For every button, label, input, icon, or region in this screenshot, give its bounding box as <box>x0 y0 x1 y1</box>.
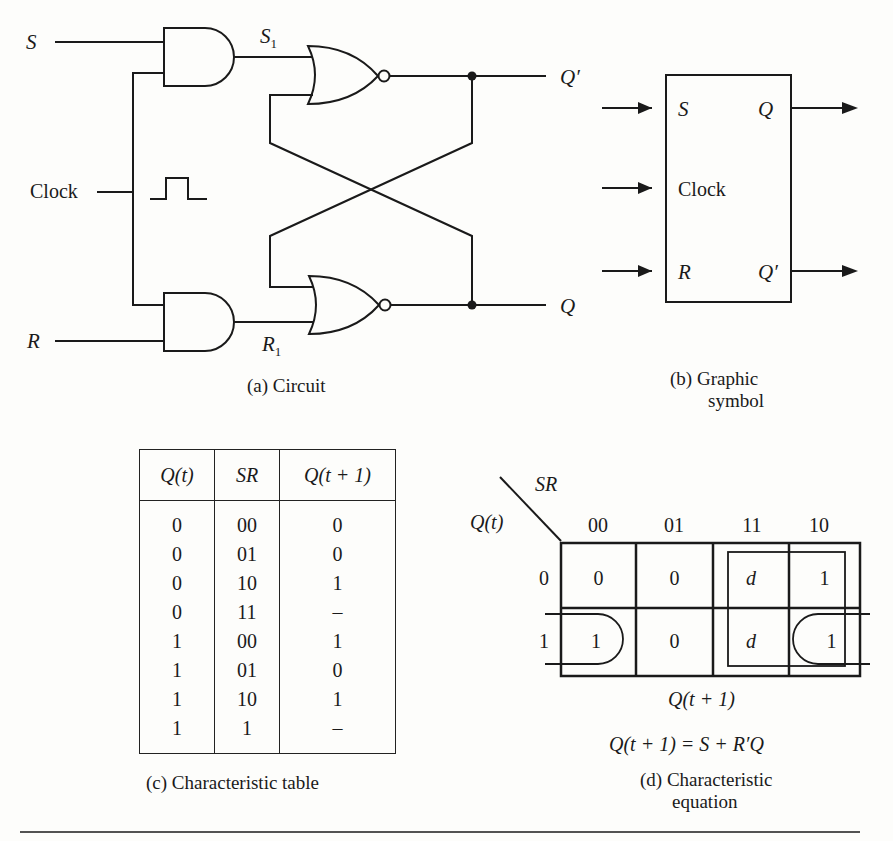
kmap-cell: 1 <box>789 568 860 588</box>
wire-clock-bus <box>133 73 164 305</box>
table-row: 1101 <box>140 685 396 714</box>
table-cell: 1 <box>215 714 280 754</box>
kmap-col-label: 01 <box>652 515 696 535</box>
wire-feedback-q-to-top-nor <box>270 95 472 305</box>
symbol-pin-s: S <box>678 99 689 120</box>
symbol-pin-q-prime: Q′ <box>758 262 778 283</box>
nor-top-bubble <box>379 71 390 82</box>
table-cell: 01 <box>215 656 280 685</box>
table-cell: 0 <box>280 656 396 685</box>
nor-gate-top <box>308 46 378 104</box>
output-label-q-prime: Q′ <box>560 67 580 88</box>
kmap-cell: 0 <box>636 568 713 588</box>
caption-kmap-line2: equation <box>672 790 737 813</box>
table-row: 1001 <box>140 627 396 656</box>
caption-symbol-line1: (b) Graphic <box>670 367 758 390</box>
characteristic-equation: Q(t + 1) = S + R′Q <box>609 734 764 754</box>
caption-table: (c) Characteristic table <box>146 771 319 794</box>
table-cell: 01 <box>215 540 280 569</box>
table-cell: – <box>280 598 396 627</box>
table-cell: 1 <box>280 569 396 598</box>
kmap-cell: d <box>713 631 789 651</box>
table-cell: 10 <box>215 569 280 598</box>
kmap-cell: 1 <box>796 631 867 651</box>
kmap-cell: d <box>713 568 789 588</box>
arrowhead-icon <box>638 102 652 114</box>
table-row: 011– <box>140 598 396 627</box>
table-header: Q(t) <box>140 450 215 501</box>
table-cell: 1 <box>280 685 396 714</box>
clock-pulse-icon <box>150 178 207 199</box>
output-label-q: Q <box>560 296 575 317</box>
arrowhead-icon <box>638 182 652 194</box>
symbol-pin-q: Q <box>758 99 773 120</box>
junction-dot-top <box>468 72 477 81</box>
kmap-row-label: 1 <box>536 631 552 651</box>
table-cell: 0 <box>140 598 215 627</box>
table-header-row: Q(t) SR Q(t + 1) <box>140 450 396 501</box>
table-cell: 0 <box>140 540 215 569</box>
caption-symbol-line2: symbol <box>708 389 764 412</box>
diagram-canvas <box>0 0 893 841</box>
symbol-pin-clock: Clock <box>678 179 726 199</box>
table-row: 0000 <box>140 501 396 541</box>
table-cell: 0 <box>140 501 215 541</box>
table-cell: 0 <box>280 540 396 569</box>
caption-kmap-line1: (d) Characteristic <box>640 768 772 791</box>
and-gate-bottom <box>164 293 234 351</box>
table-cell: 1 <box>140 656 215 685</box>
table-header: Q(t + 1) <box>280 450 396 501</box>
nor-gate-bottom <box>309 276 379 334</box>
input-label-r: R <box>27 331 40 352</box>
symbol-pin-r: R <box>678 262 691 283</box>
table-cell: 1 <box>140 685 215 714</box>
kmap-col-label: 00 <box>576 515 620 535</box>
table-cell: 10 <box>215 685 280 714</box>
input-label-clock: Clock <box>30 181 78 201</box>
signal-label-r1: R1 <box>262 334 281 358</box>
wire-feedback-qprime-to-bottom-nor <box>270 76 472 287</box>
table-cell: 00 <box>215 627 280 656</box>
arrowhead-icon <box>842 102 858 114</box>
table-cell: 0 <box>140 569 215 598</box>
table-cell: 1 <box>140 627 215 656</box>
table-cell: 11 <box>215 598 280 627</box>
table-row: 0010 <box>140 540 396 569</box>
kmap-col-label: 10 <box>797 515 841 535</box>
arrowhead-icon <box>638 265 652 277</box>
table-row: 11– <box>140 714 396 754</box>
kmap-col-label: 11 <box>730 515 774 535</box>
table-row: 0101 <box>140 569 396 598</box>
caption-circuit: (a) Circuit <box>247 374 326 397</box>
table-cell: 0 <box>280 501 396 541</box>
characteristic-table: Q(t) SR Q(t + 1) 0000 0010 0101 011– 100… <box>139 449 396 754</box>
kmap-row-label: 0 <box>536 568 552 588</box>
input-label-s: S <box>26 32 37 53</box>
table-cell: – <box>280 714 396 754</box>
kmap-grid <box>561 543 860 676</box>
table-cell: 1 <box>140 714 215 754</box>
table-header: SR <box>215 450 280 501</box>
kmap-cell: 0 <box>561 568 636 588</box>
kmap-output-label: Q(t + 1) <box>668 689 735 709</box>
table-row: 1010 <box>140 656 396 685</box>
table-cell: 1 <box>280 627 396 656</box>
table-cell: 00 <box>215 501 280 541</box>
kmap-row-var: Q(t) <box>470 512 503 532</box>
junction-dot-bottom <box>468 301 477 310</box>
kmap-cell: 1 <box>561 631 631 651</box>
and-gate-top <box>164 28 234 86</box>
kmap-cell: 0 <box>636 631 713 651</box>
kmap-col-var: SR <box>535 474 557 494</box>
arrowhead-icon <box>842 265 858 277</box>
nor-bottom-bubble <box>380 300 391 311</box>
signal-label-s1: S1 <box>260 26 277 50</box>
